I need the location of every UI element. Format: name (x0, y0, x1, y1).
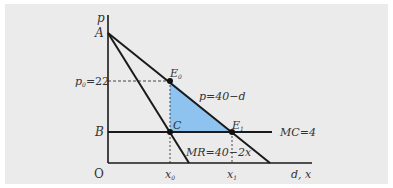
label-a: A (94, 26, 104, 40)
label-c: C (173, 119, 182, 132)
mc-label: MC=4 (279, 126, 316, 139)
x0-tick-label: x0 (165, 168, 175, 181)
price-label: p0=22 (75, 75, 109, 88)
y-axis-label: p (97, 11, 105, 25)
mr-label: MR=40−2x (185, 146, 252, 159)
x1-tick-label: x1 (227, 168, 237, 181)
x-axis-label: d, x (291, 168, 312, 181)
label-b: B (94, 125, 104, 139)
label-e0: E0 (169, 67, 182, 80)
demand-line (108, 33, 270, 163)
economics-diagram: p A p0=22 E0 p=40−d B C E1 MC=4 MR=40−2x… (0, 0, 393, 188)
label-e1: E1 (231, 119, 244, 132)
origin-label: O (94, 167, 104, 181)
demand-label: p=40−d (199, 90, 246, 103)
